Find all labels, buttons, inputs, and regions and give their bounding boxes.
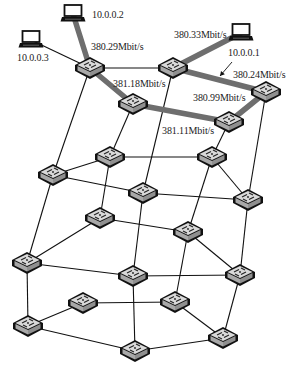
link-s8-s14 xyxy=(133,193,143,276)
link-s1-s6 xyxy=(53,68,90,175)
laptop-icon-h1[interactable] xyxy=(229,24,254,41)
switch-icon[interactable] xyxy=(225,264,255,286)
switch-icon[interactable] xyxy=(38,164,68,186)
bandwidth-label: 380.99Mbit/s xyxy=(193,93,245,103)
link-s14-s19 xyxy=(133,276,135,351)
host-ip-label: 10.0.0.1 xyxy=(228,48,260,58)
bandwidth-label: 380.29Mbit/s xyxy=(91,42,143,52)
link-s13-s14 xyxy=(27,263,133,276)
link-s14-s15 xyxy=(133,275,240,276)
laptop-icon-h3[interactable] xyxy=(19,31,44,48)
host-ip-label: 10.0.0.2 xyxy=(92,10,124,20)
switch-icon[interactable] xyxy=(68,292,98,314)
link-s12-s17 xyxy=(175,232,188,302)
link-s9-s12 xyxy=(188,157,212,232)
bandwidth-label: 381.11Mbit/s xyxy=(162,126,214,136)
link-s18-s19 xyxy=(28,326,135,351)
annotation-arrow xyxy=(220,62,232,76)
laptop-icon-h2[interactable] xyxy=(61,5,86,22)
switch-icon[interactable] xyxy=(85,207,115,229)
host-ip-label: 10.0.0.3 xyxy=(17,53,49,63)
switch-icon[interactable] xyxy=(128,182,158,204)
switch-icon[interactable] xyxy=(120,340,150,362)
switch-icon[interactable] xyxy=(12,252,42,274)
switch-icon[interactable] xyxy=(173,221,203,243)
switch-icon[interactable] xyxy=(233,189,263,211)
bandwidth-label: 381.18Mbit/s xyxy=(113,79,165,89)
bandwidth-label: 380.24Mbit/s xyxy=(233,70,285,80)
link-s8-s10 xyxy=(143,193,248,200)
link-s4-s10 xyxy=(248,92,266,200)
bandwidth-label: 380.33Mbit/s xyxy=(174,30,226,40)
switch-icon[interactable] xyxy=(118,265,148,287)
link-s10-s15 xyxy=(240,200,248,275)
switch-icon[interactable] xyxy=(95,146,125,168)
switch-icon[interactable] xyxy=(13,315,43,337)
switch-icon[interactable] xyxy=(197,146,227,168)
